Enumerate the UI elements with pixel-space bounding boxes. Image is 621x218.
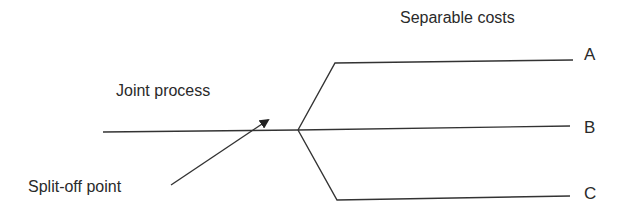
- product-a-line: [298, 60, 573, 130]
- split-off-arrow: [171, 120, 268, 185]
- product-b-label: B: [584, 119, 595, 136]
- product-a-label: A: [584, 46, 595, 63]
- split-off-point-label: Split-off point: [28, 179, 121, 195]
- joint-cost-diagram: Separable costs Joint process Split-off …: [0, 0, 621, 218]
- product-b-line: [298, 126, 570, 130]
- separable-costs-label: Separable costs: [400, 10, 515, 26]
- product-c-line: [298, 130, 570, 200]
- joint-process-line: [103, 130, 298, 132]
- joint-process-label: Joint process: [116, 83, 210, 99]
- product-c-label: C: [584, 185, 596, 202]
